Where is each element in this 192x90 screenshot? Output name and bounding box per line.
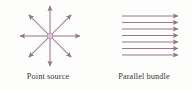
ray-northeast (50, 15, 71, 36)
parallel-bundle-diagram (96, 0, 192, 70)
point-source-dot (47, 33, 53, 39)
ray-group (122, 16, 178, 55)
ray-southeast (50, 36, 71, 57)
point-source-diagram (0, 0, 96, 70)
ray-northwest (29, 15, 50, 36)
optics-ray-figure: Point source Parallel bundle (0, 0, 192, 90)
panel-point-source: Point source (0, 0, 96, 90)
ray-southwest (29, 36, 50, 57)
panel-parallel-bundle: Parallel bundle (96, 0, 192, 90)
caption-point-source: Point source (0, 72, 96, 82)
caption-parallel-bundle: Parallel bundle (96, 72, 192, 82)
